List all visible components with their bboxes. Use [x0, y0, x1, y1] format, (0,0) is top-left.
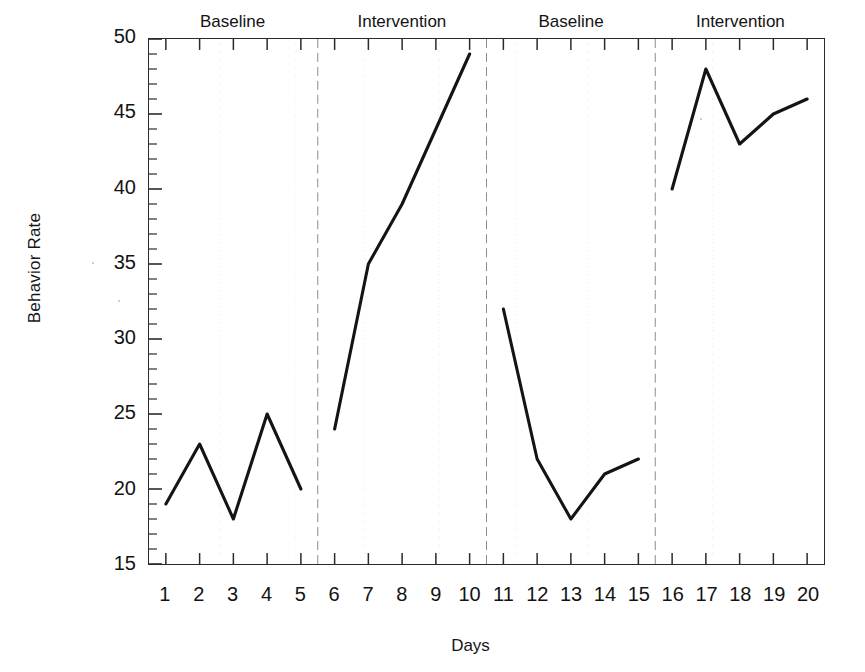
scan-speckle	[700, 118, 702, 120]
phase-label-2: Intervention	[312, 12, 492, 32]
phase-label-4: Intervention	[650, 12, 830, 32]
scan-speckle	[118, 300, 120, 302]
scan-speckle	[92, 262, 94, 264]
chart-figure: Behavior Rate Days 5045403530252015 1234…	[0, 0, 865, 672]
phase-label-3: Baseline	[481, 12, 661, 32]
phase-label-1: Baseline	[143, 12, 323, 32]
phase-label-group: BaselineInterventionBaselineIntervention	[0, 0, 865, 672]
